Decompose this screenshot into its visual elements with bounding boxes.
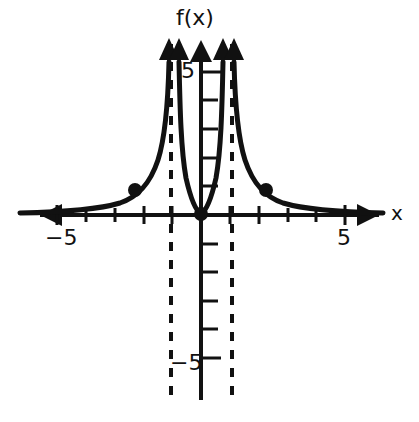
y-axis-group [190, 40, 221, 400]
x-axis-label: x [391, 203, 403, 223]
function-title-label: f(x) [176, 7, 214, 29]
curve-branch-right-outer [234, 62, 383, 213]
y-tick-label-pos5: 5 [181, 60, 195, 82]
x-tick-label-neg5: −5 [45, 227, 77, 249]
x-tick-label-pos5: 5 [337, 227, 351, 249]
curve-branch-middle-left [179, 62, 201, 214]
x-axis-left-arrowhead [40, 204, 62, 226]
marked-point-right [259, 183, 273, 197]
graph-canvas: f(x) x −5 5 5 −5 [0, 0, 419, 422]
curve-branch-left-outer [20, 62, 169, 213]
marked-point-origin [194, 207, 208, 221]
marked-point-left [128, 183, 142, 197]
function-plot-svg [0, 0, 419, 422]
curve-branch-middle-right [201, 62, 223, 214]
y-tick-label-neg5: −5 [170, 352, 202, 374]
